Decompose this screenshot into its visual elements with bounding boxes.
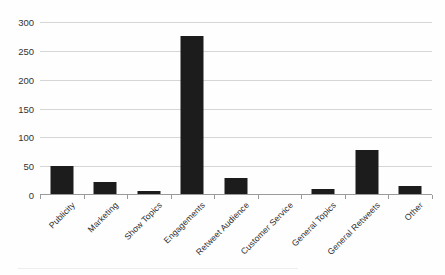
y-axis-tick-label: 300: [0, 17, 34, 28]
x-axis-tick: [388, 195, 389, 199]
x-axis-line: [40, 194, 432, 195]
x-axis-tick: [40, 195, 41, 199]
x-axis-tick: [127, 195, 128, 199]
x-axis-tick: [84, 195, 85, 199]
x-axis-labels: PublicityMarketingShow TopicsEngagements…: [40, 200, 432, 270]
x-axis-tick: [301, 195, 302, 199]
bar: [355, 150, 378, 195]
x-axis-category-label: Publicity: [46, 200, 76, 230]
x-axis-category-text: Publicity: [46, 200, 76, 230]
bar-slot: [214, 22, 258, 195]
bar-slot: [301, 22, 345, 195]
y-axis-tick-label: 50: [0, 161, 34, 172]
bar-slot: [171, 22, 215, 195]
bar-chart: 050100150200250300 PublicityMarketingSho…: [0, 0, 445, 275]
bar-slot: [40, 22, 84, 195]
x-axis-category-label: General Topics: [290, 200, 338, 248]
bar-slot: [345, 22, 389, 195]
scan-artifact: [18, 268, 298, 269]
bar: [181, 36, 204, 195]
bar-slot: [127, 22, 171, 195]
bar: [224, 178, 247, 195]
x-axis-category-text: Show Topics: [122, 200, 164, 242]
y-axis-tick-label: 200: [0, 74, 34, 85]
x-axis-category-text: General Topics: [290, 200, 338, 248]
bars-layer: [40, 22, 432, 195]
x-axis-tick: [345, 195, 346, 199]
y-axis-tick-label: 0: [0, 190, 34, 201]
x-axis-category-label: Other: [403, 200, 426, 223]
x-axis-category-text: Marketing: [86, 200, 120, 234]
x-axis-category-label: Show Topics: [122, 200, 164, 242]
y-axis-tick-label: 100: [0, 132, 34, 143]
bar-slot: [388, 22, 432, 195]
bar: [94, 182, 117, 195]
x-axis-category-label: Engagements: [162, 200, 207, 245]
bar: [50, 166, 73, 195]
x-axis-tick: [171, 195, 172, 199]
x-axis-tick: [432, 195, 433, 199]
x-axis-tick: [258, 195, 259, 199]
y-axis-tick-label: 250: [0, 45, 34, 56]
x-axis-category-text: Other: [403, 200, 426, 223]
x-axis-category-label: Marketing: [86, 200, 120, 234]
y-axis-tick-label: 150: [0, 103, 34, 114]
x-axis-category-text: Engagements: [162, 200, 207, 245]
bar-slot: [258, 22, 302, 195]
x-axis-tick: [214, 195, 215, 199]
plot-area: [40, 22, 432, 195]
bar-slot: [84, 22, 128, 195]
